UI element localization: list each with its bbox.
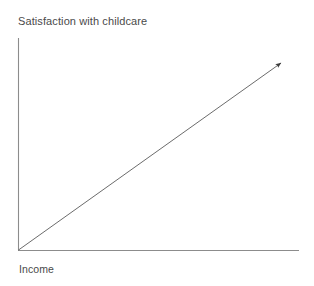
chart-plot-area <box>0 0 314 286</box>
trend-line-arrow <box>19 63 282 250</box>
x-axis-label: Income <box>19 262 54 276</box>
chart-figure: Satisfaction with childcare Income <box>0 0 314 286</box>
